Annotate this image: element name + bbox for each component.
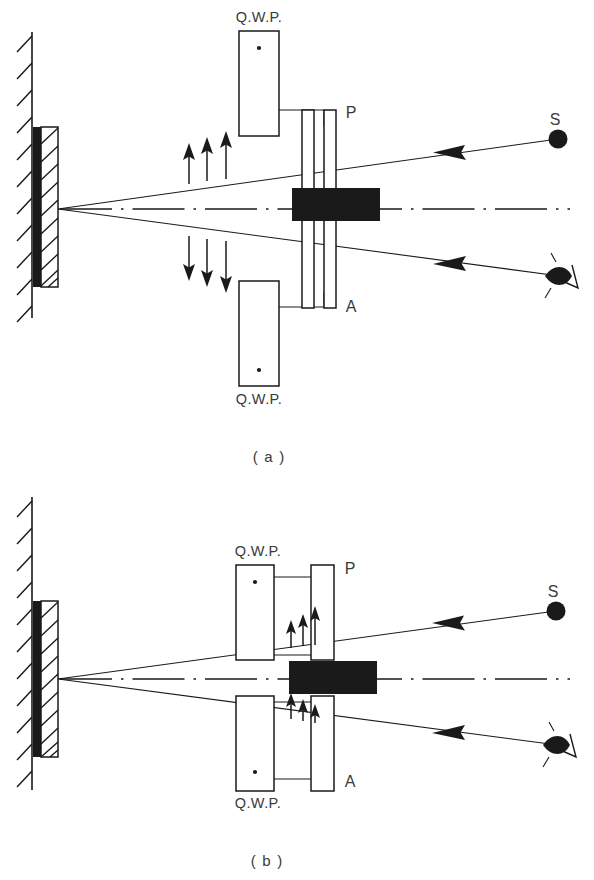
mirror-b [33, 601, 58, 757]
analyzer-label-a: A [346, 298, 357, 315]
polarization-arrows-top-b [286, 606, 320, 648]
pol-arrow [183, 236, 195, 281]
pol-arrow [220, 241, 232, 293]
qwp-bottom-label-a: Q.W.P. [236, 391, 282, 407]
eye-detector-a [545, 253, 578, 298]
specimen-block-b [289, 661, 377, 694]
wall-a [17, 32, 32, 322]
specimen-block-a [292, 188, 380, 221]
ray-direction-arrows-b [432, 616, 465, 741]
ray-direction-arrows-a [433, 145, 466, 271]
qwp-top-label-a: Q.W.P. [236, 9, 282, 25]
polarizer-label-a: P [346, 104, 357, 121]
panel-b-caption: ( b ) [251, 852, 284, 869]
pol-arrow [286, 620, 296, 648]
qwp-bottom-b: Q.W.P. [235, 696, 311, 811]
figure-root: S Q.W.P. Q.W.P. [0, 0, 594, 880]
analyzer-label-b: A [345, 773, 356, 790]
light-source-s-b: S [547, 583, 566, 621]
panel-a-caption: ( a ) [253, 448, 286, 465]
polarizer-label-b: P [345, 560, 356, 577]
pol-arrow [201, 239, 213, 287]
wall-b [17, 497, 32, 790]
source-label-a: S [550, 111, 561, 128]
panel-a: S Q.W.P. Q.W.P. [17, 9, 578, 465]
pol-arrow [286, 693, 296, 719]
qwp-top-label-b: Q.W.P. [235, 543, 281, 559]
pol-arrow [183, 143, 195, 184]
polarization-arrows-top-a [183, 131, 232, 184]
pol-arrow [298, 614, 308, 646]
eye-detector-b [543, 722, 576, 767]
source-label-b: S [548, 583, 559, 600]
qwp-top-b: Q.W.P. [235, 543, 311, 660]
light-source-s-a: S [549, 111, 568, 149]
pol-arrow [201, 137, 213, 181]
panel-b: S Q.W.P. Q.W.P. [17, 497, 576, 869]
qwp-bottom-label-b: Q.W.P. [235, 795, 281, 811]
pol-arrow [220, 131, 232, 179]
polarization-arrows-bottom-a [183, 236, 232, 293]
optical-setup-diagram: S Q.W.P. Q.W.P. [0, 0, 594, 880]
mirror-a [33, 127, 58, 287]
